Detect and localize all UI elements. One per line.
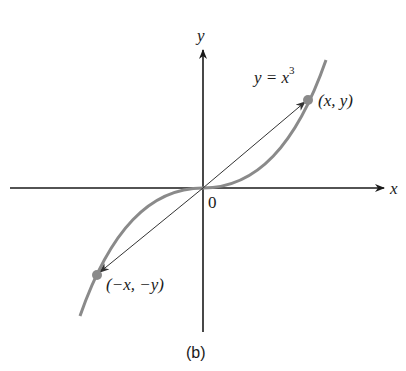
point-neg-xy <box>92 270 102 280</box>
figure-caption: (b) <box>186 345 206 361</box>
equation-label: y = x3 <box>254 67 295 86</box>
point-xy <box>303 95 313 105</box>
equation-text: y = x <box>254 68 289 87</box>
vector-to-point <box>203 102 305 188</box>
equation-exponent: 3 <box>289 64 295 76</box>
x-axis-label: x <box>390 180 398 197</box>
vector-to-negated-point <box>100 188 203 272</box>
cubic-graph <box>0 0 406 371</box>
origin-label: 0 <box>208 194 217 211</box>
point-neg-xy-label: (−x, −y) <box>106 276 164 293</box>
y-axis-label: y <box>197 27 205 44</box>
point-xy-label: (x, y) <box>318 92 353 109</box>
